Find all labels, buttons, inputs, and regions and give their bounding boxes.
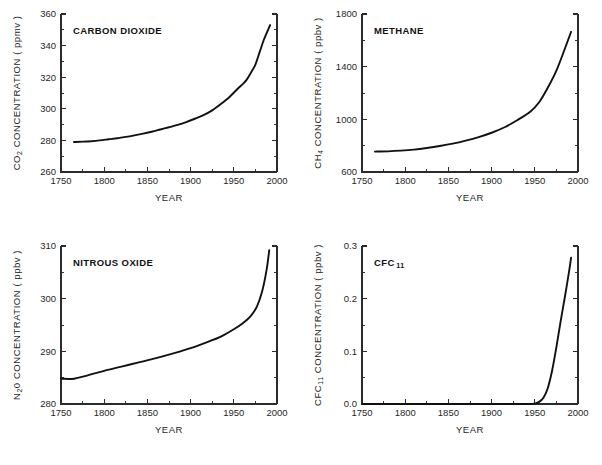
greenhouse-gas-figure: 2602803003203403601750180018501900195020… (0, 0, 602, 465)
y-tick-label: 290 (40, 346, 56, 357)
panel-title: NITROUS OXIDE (73, 257, 153, 268)
y-tick-label: 0.2 (344, 293, 357, 304)
panel-methane: 600100014001800175018001850190019502000Y… (301, 0, 602, 232)
x-axis-ticks: 175018001850190019502000 (50, 167, 287, 186)
data-curve-co2 (74, 25, 270, 142)
panel-title: METHANE (374, 25, 424, 36)
y-axis-title: CFC11 CONCENTRATION ( ppbv ) (312, 244, 324, 406)
x-tick-label: 1750 (351, 175, 372, 186)
x-tick-label: 1850 (137, 175, 158, 186)
x-tick-label: 1800 (395, 407, 416, 418)
y-tick-label: 300 (40, 103, 56, 114)
panel-carbon-dioxide: 2602803003203403601750180018501900195020… (0, 0, 301, 232)
x-axis-ticks: 175018001850190019502000 (351, 167, 588, 186)
x-tick-label: 1850 (137, 407, 158, 418)
x-axis-title: YEAR (456, 424, 484, 435)
y-tick-label: 310 (40, 240, 56, 251)
y-axis-title: N20 CONCENTRATION ( ppbv ) (11, 250, 23, 400)
y-tick-label: 280 (40, 135, 56, 146)
panel-title: CFC11 (374, 257, 404, 269)
data-curve-cfc11 (362, 258, 571, 404)
plot-cfc11: 0.00.10.20.3175018001850190019502000YEAR… (301, 232, 602, 465)
y-tick-label: 300 (40, 293, 56, 304)
x-tick-label: 1950 (524, 407, 545, 418)
x-axis-ticks: 175018001850190019502000 (50, 399, 287, 418)
x-tick-label: 1850 (438, 175, 459, 186)
x-tick-label: 1800 (94, 175, 115, 186)
x-tick-label: 1850 (438, 407, 459, 418)
x-tick-label: 2000 (567, 407, 588, 418)
x-tick-label: 1750 (351, 407, 372, 418)
x-tick-label: 2000 (266, 407, 287, 418)
x-tick-label: 1800 (94, 407, 115, 418)
y-tick-label: 0.3 (344, 240, 357, 251)
y-tick-label: 320 (40, 72, 56, 83)
y-tick-label: 0.1 (344, 346, 357, 357)
y-tick-label: 1000 (336, 114, 357, 125)
x-tick-label: 1900 (481, 407, 502, 418)
panel-title: CARBON DIOXIDE (73, 25, 162, 36)
axis-spines (362, 246, 578, 404)
y-axis-title: CO2 CONCENTRATION ( ppmv ) (11, 16, 23, 171)
y-tick-label: 1400 (336, 61, 357, 72)
axis-spines (61, 246, 277, 404)
x-axis-title: YEAR (155, 424, 183, 435)
x-tick-label: 1900 (481, 175, 502, 186)
panel-cfc-11: 0.00.10.20.3175018001850190019502000YEAR… (301, 232, 602, 465)
data-curve-n2o (61, 250, 269, 379)
plot-n2o: 280290300310175018001850190019502000YEAR… (0, 232, 301, 465)
y-axis-ticks: 600100014001800 (336, 8, 578, 177)
axis-spines (61, 14, 277, 172)
x-tick-label: 2000 (266, 175, 287, 186)
x-tick-label: 1750 (50, 407, 71, 418)
plot-ch4: 600100014001800175018001850190019502000Y… (301, 0, 602, 233)
panel-nitrous-oxide: 280290300310175018001850190019502000YEAR… (0, 232, 301, 465)
x-tick-label: 1950 (223, 407, 244, 418)
x-tick-label: 2000 (567, 175, 588, 186)
x-tick-label: 1950 (524, 175, 545, 186)
plot-co2: 2602803003203403601750180018501900195020… (0, 0, 301, 233)
x-tick-label: 1900 (180, 175, 201, 186)
data-curve-ch4 (375, 32, 571, 152)
y-tick-label: 340 (40, 40, 56, 51)
x-axis-ticks: 175018001850190019502000 (351, 399, 588, 418)
y-axis-title: CH4 CONCENTRATION ( ppbv ) (312, 17, 324, 169)
x-axis-title: YEAR (456, 192, 484, 203)
x-axis-title: YEAR (155, 192, 183, 203)
x-tick-label: 1950 (223, 175, 244, 186)
x-tick-label: 1800 (395, 175, 416, 186)
x-tick-label: 1900 (180, 407, 201, 418)
y-tick-label: 360 (40, 8, 56, 19)
x-tick-label: 1750 (50, 175, 71, 186)
y-tick-label: 1800 (336, 8, 357, 19)
